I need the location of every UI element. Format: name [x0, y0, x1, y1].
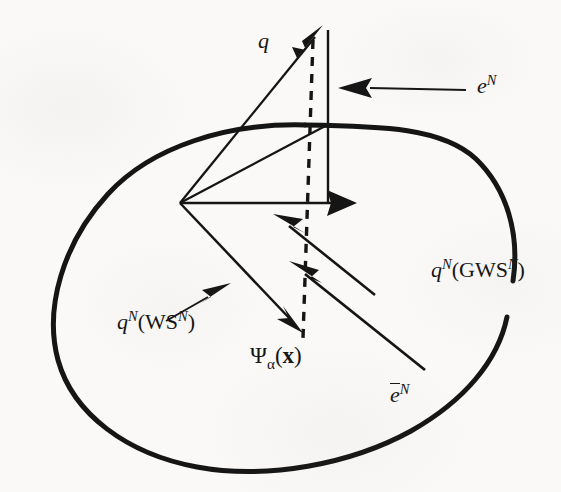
region-outline-main	[53, 125, 507, 472]
label-qN-gws-inner: GWS	[459, 257, 508, 282]
label-psi-base: Ψ	[250, 343, 267, 368]
label-q: q	[258, 30, 269, 52]
label-qN-ws-sup: N	[128, 308, 138, 324]
label-ebarN-base: e	[390, 383, 400, 406]
figure-root: q eN qN(GWSN) qN(WSN) Ψα(x) eN	[0, 0, 561, 492]
label-e-superscript-N: eN	[477, 75, 496, 97]
label-ebarN-sup: N	[400, 381, 410, 397]
label-eN-base: e	[477, 73, 487, 98]
label-eN-sup: N	[487, 72, 497, 88]
eN-pointer-arrowhead	[338, 78, 372, 98]
label-psi-close: )	[294, 343, 302, 368]
dashed-projection-line	[303, 40, 313, 338]
label-qN-ws-close: )	[188, 309, 195, 334]
q-vector-arrowhead	[292, 25, 323, 58]
label-qN-GWS-N: qN(GWSN)	[431, 259, 525, 281]
qN-WS-pointer-arrowhead	[201, 283, 231, 303]
label-psi-alpha-of-x: Ψα(x)	[250, 344, 302, 367]
label-qN-WS-N: qN(WSN)	[117, 311, 195, 333]
label-psi-sub: α	[267, 355, 275, 372]
label-qN-ws-base: q	[117, 309, 128, 334]
label-qN-ws-inner: WS	[145, 309, 178, 334]
ebar-upper-vector-shaft	[289, 226, 375, 295]
region-boundary-group	[53, 125, 514, 472]
qN-GWS-arrowhead	[327, 190, 357, 216]
q-vector-shaft	[180, 37, 315, 203]
label-q-text: q	[258, 28, 269, 53]
label-qN-gws-inner-sup: N	[508, 256, 518, 272]
label-qN-ws-inner-sup: N	[178, 308, 188, 324]
label-psi-arg: x	[283, 343, 295, 368]
label-e-bar-superscript-N: eN	[390, 383, 409, 406]
label-qN-gws-close: )	[518, 257, 525, 282]
vector-lines-group	[166, 37, 466, 370]
label-qN-gws-open: (	[452, 257, 459, 282]
label-qN-ws-open: (	[138, 309, 145, 334]
label-qN-gws-base: q	[431, 257, 442, 282]
eN-pointer-shaft	[370, 88, 466, 90]
label-psi-open: (	[275, 343, 283, 368]
label-qN-gws-sup: N	[442, 256, 452, 272]
ebar-upper-arrowhead	[273, 214, 305, 233]
